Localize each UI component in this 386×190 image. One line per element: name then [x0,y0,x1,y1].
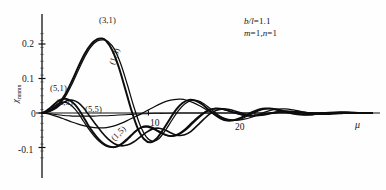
y-tick-label-2: 0 [31,110,36,120]
annotation-mode-n-value: =1 [267,28,277,38]
annotation-ratio: b/l=1.1 [244,17,271,26]
x-tick-label-10: 10 [150,119,160,129]
x-tick-label-20: 20 [235,123,245,133]
curve-label-3-3: (3,3) [56,98,73,107]
chart-plot-area [0,0,386,190]
annotation-modes: m=1,n=1 [244,29,277,38]
annotation-ratio-symbol: b/l [244,16,254,26]
curve-label-3-1: (3,1) [99,16,116,25]
curve-label-5-1: (5,1) [50,84,67,93]
annotation-mode-m: m [244,28,251,38]
figure-container: χmnmn 0.2 0.1 0 -0.1 10 20 μ (3,1) (1,3)… [0,0,386,190]
y-axis-label: χmnmn [10,74,22,114]
y-axis-label-symbol: χ [10,99,20,103]
y-tick-label-0: 0.2 [22,40,34,50]
annotation-ratio-value: =1.1 [254,16,271,26]
curve-13 [42,40,372,142]
curve-label-5-5: (5,5) [85,105,102,114]
y-axis-label-subscript: mnmn [16,85,22,99]
annotation-mode-m-value: =1, [251,28,263,38]
y-tick-label-1: 0.1 [22,75,34,85]
x-axis-label: μ [355,120,360,130]
y-tick-label-3: -0.1 [18,146,33,156]
